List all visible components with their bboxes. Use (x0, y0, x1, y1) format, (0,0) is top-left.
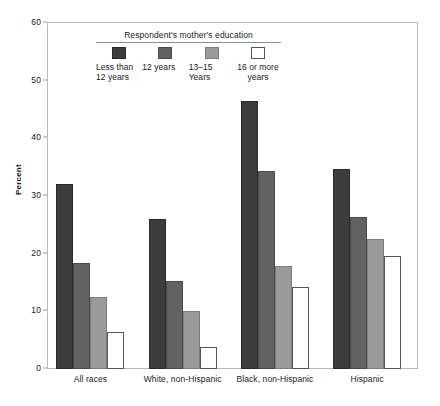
bar (333, 169, 350, 369)
y-tick-label: 40 (31, 132, 41, 142)
y-tick-label: 60 (31, 17, 41, 27)
legend-item-label: 16 or moreyears (237, 62, 279, 82)
bar (241, 101, 258, 369)
y-axis: 0102030405060 (0, 22, 47, 369)
y-tick-mark (43, 310, 47, 311)
legend-item: 13–15 Years (189, 47, 235, 82)
y-tick-label: 20 (31, 248, 41, 258)
legend-item-label: Less than12 years (96, 62, 142, 82)
bar-chart: 0102030405060 Percent All racesWhite, no… (0, 0, 440, 406)
legend-title: Respondent's mother's education (96, 30, 281, 43)
swatch-dark-icon (112, 47, 126, 59)
bar (107, 332, 124, 369)
y-tick-label: 0 (36, 363, 41, 373)
y-tick-mark (43, 137, 47, 138)
y-tick-mark (43, 195, 47, 196)
legend-item: Less than12 years (96, 47, 142, 82)
bar (292, 287, 309, 369)
bar (149, 219, 166, 369)
bar-group (333, 23, 401, 369)
bar (258, 171, 275, 369)
bar (275, 266, 292, 369)
x-tick-label: Black, non-Hispanic (236, 374, 313, 384)
bar (166, 281, 183, 369)
bar (200, 347, 217, 369)
bar (183, 311, 200, 369)
legend-item: 12 years (142, 47, 188, 72)
swatch-medium-icon (158, 47, 172, 59)
legend-item: 16 or moreyears (235, 47, 281, 82)
y-tick-label: 10 (31, 305, 41, 315)
y-tick-mark (43, 22, 47, 23)
bar (350, 217, 367, 369)
chart-legend: Respondent's mother's education Less tha… (96, 30, 281, 82)
swatch-light-icon (205, 47, 219, 59)
x-tick-label: White, non-Hispanic (144, 374, 222, 384)
bar (73, 263, 90, 369)
swatch-white-icon (251, 47, 265, 59)
bar (367, 239, 384, 369)
y-tick-mark (43, 79, 47, 80)
legend-item-label: 12 years (142, 62, 188, 72)
y-tick-mark (43, 252, 47, 253)
x-tick-label: All races (74, 374, 108, 384)
bar (90, 297, 107, 369)
x-axis: All racesWhite, non-HispanicBlack, non-H… (48, 374, 417, 394)
y-axis-title: Percent (14, 164, 23, 195)
bar (384, 256, 401, 369)
legend-items: Less than12 years12 years13–15 Years16 o… (96, 43, 281, 82)
legend-item-label: 13–15 Years (189, 62, 235, 82)
y-tick-mark (43, 368, 47, 369)
x-tick-label: Hispanic (350, 374, 383, 384)
y-tick-label: 30 (31, 190, 41, 200)
bar (56, 184, 73, 369)
y-tick-label: 50 (31, 75, 41, 85)
